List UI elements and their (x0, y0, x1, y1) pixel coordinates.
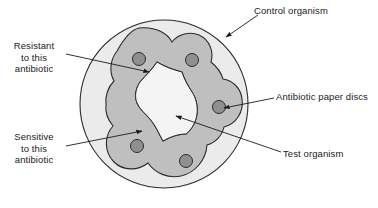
disc-bottom-left (131, 140, 144, 153)
label-control-organism: Control organism (254, 5, 374, 17)
label-antibiotic-paper-discs: Antibiotic paper discs (276, 91, 378, 103)
label-resistant: Resistant to this antibiotic (2, 40, 66, 75)
petri-dish-diagram (0, 0, 378, 208)
disc-right (213, 101, 226, 114)
leader-line-control-organism (226, 15, 258, 37)
label-sensitive: Sensitive to this antibiotic (2, 131, 66, 166)
disc-top-left (133, 53, 146, 66)
disc-top-right (186, 54, 199, 67)
label-test-organism: Test organism (283, 148, 377, 160)
diagram-canvas: Resistant to this antibiotic Sensitive t… (0, 0, 378, 208)
disc-bottom-right (180, 155, 193, 168)
